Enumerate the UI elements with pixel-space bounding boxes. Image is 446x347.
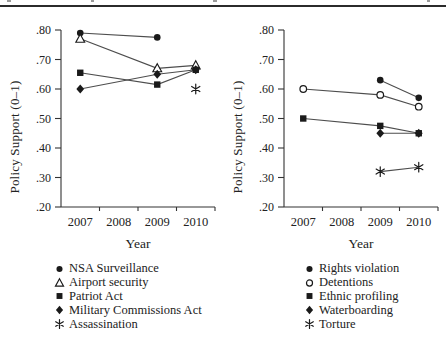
legend-item-rights-violation: Rights violation (303, 262, 399, 276)
legend-label: Patriot Act (69, 289, 123, 304)
legend-right: Rights violationDetentionsEthnic profili… (303, 262, 399, 331)
open-triangle-icon (53, 277, 66, 289)
y-tick-label: .60 (36, 82, 51, 96)
legend-label: Ethnic profiling (319, 289, 399, 304)
x-tick-label: 2009 (368, 215, 393, 229)
caption-fragment (427, 0, 430, 2)
y-tick-label: .80 (259, 23, 274, 37)
y-tick-label: .40 (259, 141, 274, 155)
legend-left: NSA SurveillanceAirport securityPatriot … (53, 262, 202, 331)
y-tick-label: .70 (259, 53, 274, 67)
y-tick-label: .20 (259, 200, 274, 214)
asterisk-icon (53, 318, 66, 330)
y-tick-label: .80 (36, 23, 51, 37)
series-markers-military-commissions-act (76, 65, 199, 93)
x-tick-label: 2009 (145, 215, 170, 229)
filled-circle-icon (53, 263, 66, 275)
axes (55, 30, 215, 211)
open-circle-icon (303, 277, 316, 289)
legend-label: Assassination (69, 317, 138, 332)
chart-panel-right: Policy Support (0–1) .80.70.60.50.40.30.… (223, 8, 446, 340)
charts-row: Policy Support (0–1) .80.70.60.50.40.30.… (0, 8, 446, 340)
legend-label: NSA Surveillance (69, 261, 159, 276)
plot-area-left: .80.70.60.50.40.30.202007200820092010 (0, 8, 223, 230)
plot-area-right: .80.70.60.50.40.30.202007200820092010 (223, 8, 446, 230)
top-rule (0, 5, 446, 7)
x-axis-label: Year (284, 236, 438, 252)
y-tick-label: .20 (36, 200, 51, 214)
x-tick-label: 2007 (291, 215, 316, 229)
legend-item-nsa-surveillance: NSA Surveillance (53, 262, 202, 276)
y-axis-label: Policy Support (0–1) (7, 80, 23, 193)
x-tick-label: 2008 (106, 215, 131, 229)
legend-item-airport-security: Airport security (53, 276, 202, 290)
legend-item-assassination: Assassination (53, 317, 202, 331)
series-markers-detentions (300, 86, 422, 110)
y-tick-label: .30 (36, 171, 51, 185)
caption-fragment (91, 0, 94, 2)
caption-fragment (213, 0, 217, 2)
x-tick-label: 2008 (329, 215, 354, 229)
x-tick-label: 2010 (183, 215, 208, 229)
filled-square-icon (53, 290, 66, 302)
chart-panel-left: Policy Support (0–1) .80.70.60.50.40.30.… (0, 8, 223, 340)
y-tick-label: .70 (36, 53, 51, 67)
legend-item-waterboarding: Waterboarding (303, 303, 399, 317)
legend-label: Waterboarding (319, 303, 393, 318)
series-line-airport-security (80, 39, 196, 69)
legend-label: Military Commissions Act (69, 303, 202, 318)
y-tick-label: .30 (259, 171, 274, 185)
x-tick-label: 2010 (406, 215, 431, 229)
legend-label: Rights violation (319, 261, 399, 276)
series-line-torture (380, 167, 419, 171)
series-line-detentions (303, 89, 419, 107)
legend-item-military-commissions-act: Military Commissions Act (53, 303, 202, 317)
series-markers-assassination (192, 84, 200, 94)
x-tick-label: 2007 (68, 215, 93, 229)
x-axis-label: Year (61, 236, 215, 252)
legend-item-detentions: Detentions (303, 276, 399, 290)
legend-label: Airport security (69, 275, 149, 290)
filled-circle-icon (303, 263, 316, 275)
y-axis-label: Policy Support (0–1) (230, 80, 246, 193)
filled-square-icon (303, 290, 316, 302)
legend-label: Torture (319, 317, 356, 332)
asterisk-icon (303, 318, 316, 330)
legend-label: Detentions (319, 275, 373, 290)
y-tick-label: .50 (259, 112, 274, 126)
series-markers-patriot-act (77, 67, 199, 88)
legend-item-torture: Torture (303, 317, 399, 331)
filled-diamond-icon (303, 304, 316, 316)
legend-item-patriot-act: Patriot Act (53, 290, 202, 304)
series-line-rights-violation (380, 80, 419, 98)
y-tick-label: .40 (36, 141, 51, 155)
series-line-military-commissions-act (80, 70, 196, 89)
y-tick-label: .50 (36, 112, 51, 126)
caption-fragment (7, 0, 11, 2)
y-tick-label: .60 (259, 82, 274, 96)
series-line-nsa-surveillance (80, 33, 157, 37)
filled-diamond-icon (53, 304, 66, 316)
series-line-ethnic-profiling (303, 119, 419, 134)
legend-item-ethnic-profiling: Ethnic profiling (303, 290, 399, 304)
figure-policy-support: Policy Support (0–1) .80.70.60.50.40.30.… (0, 0, 446, 347)
